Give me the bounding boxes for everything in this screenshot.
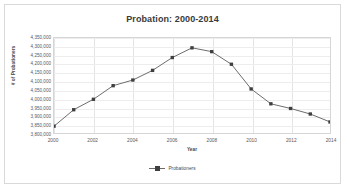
- y-axis-tick-label: 4,200,000: [7, 61, 51, 66]
- data-point-marker: [92, 98, 95, 101]
- data-point-marker: [131, 78, 134, 81]
- chart-card: Probation: 2000-2014 # of Probationers 4…: [4, 4, 341, 184]
- x-axis-tick-label: 2002: [78, 138, 108, 143]
- y-axis-tick-label: 4,250,000: [7, 52, 51, 57]
- y-axis-tick-label: 4,050,000: [7, 87, 51, 92]
- data-point-marker: [111, 84, 114, 87]
- y-axis-tick-label: 4,100,000: [7, 79, 51, 84]
- x-axis-tick-label: 2000: [38, 138, 68, 143]
- series-probationers: [54, 38, 330, 133]
- plot-area: [53, 37, 331, 134]
- y-axis-tick-label: 3,800,000: [7, 132, 51, 137]
- data-point-marker: [289, 107, 292, 110]
- data-point-marker: [309, 112, 312, 115]
- chart-title: Probation: 2000-2014: [5, 14, 340, 24]
- y-axis-tick-label: 4,000,000: [7, 96, 51, 101]
- x-axis-tick-label: 2010: [237, 138, 267, 143]
- chart-legend: Probationers: [5, 165, 340, 171]
- data-point-marker: [171, 56, 174, 59]
- y-axis-tick-label: 3,900,000: [7, 114, 51, 119]
- data-point-marker: [72, 108, 75, 111]
- data-point-marker: [230, 63, 233, 66]
- y-axis-tick-label: 4,150,000: [7, 70, 51, 75]
- data-point-marker: [269, 102, 272, 105]
- legend-item-label: Probationers: [168, 166, 195, 171]
- x-axis-tick-label: 2004: [117, 138, 147, 143]
- legend-marker-icon: [149, 165, 165, 171]
- y-axis-tick-label: 3,850,000: [7, 123, 51, 128]
- data-point-marker: [328, 120, 330, 123]
- data-point-marker: [151, 69, 154, 72]
- x-axis-tick-label: 2006: [157, 138, 187, 143]
- x-axis-title: Year: [53, 147, 331, 152]
- data-point-marker: [190, 46, 193, 49]
- x-axis-tick-label: 2012: [276, 138, 306, 143]
- data-point-marker: [54, 125, 56, 128]
- x-axis-tick-label: 2014: [316, 138, 346, 143]
- y-axis-tick-label: 3,950,000: [7, 105, 51, 110]
- y-axis-tick-label: 4,350,000: [7, 35, 51, 40]
- y-axis-tick-label: 4,300,000: [7, 43, 51, 48]
- data-point-marker: [249, 87, 252, 90]
- data-point-marker: [210, 50, 213, 53]
- x-axis-tick-label: 2008: [197, 138, 227, 143]
- y-axis-tick-labels: 4,350,0004,300,0004,250,0004,200,0004,15…: [5, 37, 51, 134]
- series-line: [54, 48, 330, 126]
